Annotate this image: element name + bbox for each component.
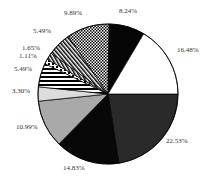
slice-label: 9.89% (64, 9, 82, 17)
slice-label: 10.99% (16, 123, 38, 131)
pie-slice-0 (108, 94, 178, 163)
slice-label: 5.49% (14, 65, 32, 73)
slice-label: 1.65% (22, 44, 40, 52)
slice-label: 16.48% (177, 46, 199, 54)
pie-chart (0, 0, 212, 186)
slice-label: 8.24% (119, 7, 137, 15)
slice-label: 22.53% (166, 137, 188, 145)
pie-slices (38, 24, 178, 164)
slice-label: 14.83% (63, 164, 85, 172)
slice-label: 1.11% (19, 52, 37, 60)
slice-label: 5.49% (33, 27, 51, 35)
slice-label: 3.30% (12, 87, 30, 95)
